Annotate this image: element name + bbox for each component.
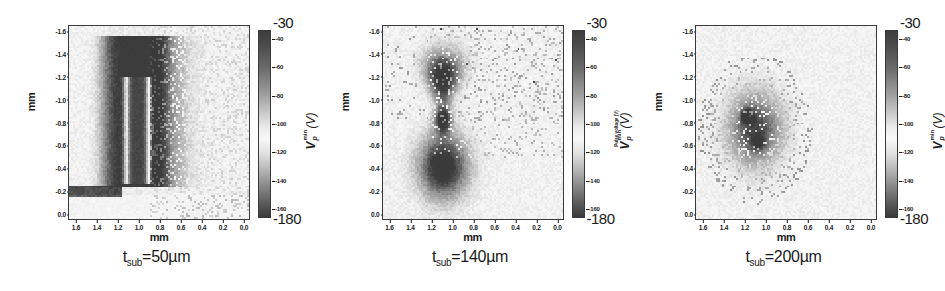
heatmap-image-tsub-50 (68, 25, 250, 220)
y-tick-label: -0.2 (369, 188, 379, 195)
colorbar-max-label: -30 (900, 14, 920, 31)
colorbar-tick-labels: -40-60-80-100-120-140-160 (586, 30, 610, 218)
colorbar-tick-label: -120 (902, 149, 913, 155)
colorbar-unit: (V) (931, 112, 945, 128)
x-tick-label: 0.8 (783, 224, 791, 231)
colorbar-max-label: -30 (587, 14, 607, 31)
y-tick-label: -1.0 (369, 96, 379, 103)
colorbar-gradient (572, 30, 585, 218)
colorbar-tick-label: -40 (589, 36, 597, 42)
y-tick-labels: -1.6-1.4-1.2-1.0-0.8-0.6-0.4-0.20.0 (30, 25, 66, 220)
x-tick-label: 0.2 (846, 224, 854, 231)
caption-value: =50µm (142, 248, 190, 265)
panel-tsub-50: mm -1.6-1.4-1.2-1.0-0.8-0.6-0.4-0.20.0 1… (0, 0, 313, 291)
x-tick-label: 0.2 (219, 224, 227, 231)
y-tick-label: -0.2 (683, 188, 693, 195)
colorbar-superscript: min (302, 130, 308, 141)
colorbar-symbol: V (931, 141, 945, 149)
caption-value: =140µm (451, 248, 508, 265)
colorbar-tick-label: -100 (275, 121, 286, 127)
panel-tsub-140: mm -1.6-1.4-1.2-1.0-0.8-0.6-0.4-0.20.0 1… (314, 0, 627, 291)
colorbar-tick-label: -60 (589, 64, 597, 70)
caption-subscript: sub (436, 257, 451, 268)
panel-caption-tsub-50: tsub=50µm (0, 248, 313, 268)
x-tick-label: 1.4 (93, 224, 101, 231)
colorbar-tick-label: -140 (902, 178, 913, 184)
y-tick-label: 0.0 (371, 211, 379, 218)
x-tick-label: 0.6 (490, 224, 498, 231)
y-tick-label: -0.8 (56, 119, 66, 126)
x-axis-title: mm (68, 231, 250, 243)
y-tick-label: -1.0 (683, 96, 693, 103)
colorbar-subscript: p (938, 136, 945, 140)
colorbar-tick-label: -140 (589, 178, 600, 184)
caption-subscript: sub (750, 257, 765, 268)
colorbar-tick-label: -80 (902, 93, 910, 99)
x-tick-label: 1.0 (135, 224, 143, 231)
colorbar-tick-label: -140 (275, 178, 286, 184)
panel-tsub-200: mm -1.6-1.4-1.2-1.0-0.8-0.6-0.4-0.20.0 1… (627, 0, 940, 291)
colorbar-tick-labels: -40-60-80-100-120-140-160 (899, 30, 923, 218)
panel-body: mm -1.6-1.4-1.2-1.0-0.8-0.6-0.4-0.20.0 1… (627, 0, 940, 245)
colorbar-tick-label: -60 (275, 64, 283, 70)
y-tick-label: -0.4 (369, 165, 379, 172)
x-axis-title: mm (695, 231, 877, 243)
x-tick-label: 0.6 (177, 224, 185, 231)
x-tick-label: 1.4 (406, 224, 414, 231)
x-tick-label: 1.2 (741, 224, 749, 231)
y-tick-label: -0.4 (56, 165, 66, 172)
colorbar-tsub-200: -30 -40-60-80-100-120-140-160 -180 Vminp… (885, 18, 937, 230)
colorbar-min-label: -180 (273, 210, 301, 227)
x-tick-label: 0.2 (532, 224, 540, 231)
y-tick-label: -1.2 (369, 73, 379, 80)
caption-subscript: sub (127, 257, 142, 268)
x-tick-label: 1.6 (699, 224, 707, 231)
y-tick-label: -1.6 (369, 28, 379, 35)
panel-body: mm -1.6-1.4-1.2-1.0-0.8-0.6-0.4-0.20.0 1… (0, 0, 313, 245)
panel-body: mm -1.6-1.4-1.2-1.0-0.8-0.6-0.4-0.20.0 1… (314, 0, 627, 245)
y-tick-label: -1.4 (56, 50, 66, 57)
heatmap-image-tsub-200 (695, 25, 877, 220)
y-tick-label: -0.6 (369, 142, 379, 149)
y-tick-label: -1.0 (56, 96, 66, 103)
panel-caption-tsub-200: tsub=200µm (627, 248, 940, 268)
y-tick-label: -0.8 (369, 119, 379, 126)
y-tick-label: -1.4 (683, 50, 693, 57)
colorbar-tick-label: -60 (902, 64, 910, 70)
y-tick-label: -0.6 (683, 142, 693, 149)
colorbar-tick-label: -80 (589, 93, 597, 99)
y-tick-label: -0.4 (683, 165, 693, 172)
colorbar-tick-label: -100 (902, 121, 913, 127)
x-tick-label: 0.4 (511, 224, 519, 231)
colorbar-min-label: -180 (587, 210, 615, 227)
colorbar-tick-labels: -40-60-80-100-120-140-160 (272, 30, 296, 218)
x-tick-label: 1.2 (114, 224, 122, 231)
x-tick-label: 0.4 (198, 224, 206, 231)
x-tick-label: 1.2 (427, 224, 435, 231)
heatmap-image-tsub-140 (382, 25, 564, 220)
colorbar-superscript: min (929, 130, 935, 141)
colorbar-gradient (885, 30, 898, 218)
x-tick-label: 0.8 (469, 224, 477, 231)
y-tick-label: -0.8 (683, 119, 693, 126)
x-tick-label: 1.4 (720, 224, 728, 231)
colorbar-superscript: min (615, 130, 621, 141)
y-tick-labels: -1.6-1.4-1.2-1.0-0.8-0.6-0.4-0.20.0 (657, 25, 693, 220)
y-tick-labels: -1.6-1.4-1.2-1.0-0.8-0.6-0.4-0.20.0 (344, 25, 380, 220)
y-tick-label: -0.6 (56, 142, 66, 149)
panel-caption-tsub-140: tsub=140µm (314, 248, 627, 268)
x-tick-label: 1.0 (448, 224, 456, 231)
colorbar-tick-label: -120 (275, 149, 286, 155)
x-tick-label: 0.8 (156, 224, 164, 231)
y-tick-label: -1.6 (56, 28, 66, 35)
y-tick-label: -1.4 (369, 50, 379, 57)
y-tick-label: 0.0 (58, 211, 66, 218)
x-tick-label: 1.6 (385, 224, 393, 231)
colorbar-tick-label: -100 (589, 121, 600, 127)
caption-value: =200µm (765, 248, 822, 265)
colorbar-max-label: -30 (273, 14, 293, 31)
colorbar-gradient (258, 30, 271, 218)
x-tick-label: 0.0 (553, 224, 561, 231)
colorbar-tick-label: -40 (275, 36, 283, 42)
